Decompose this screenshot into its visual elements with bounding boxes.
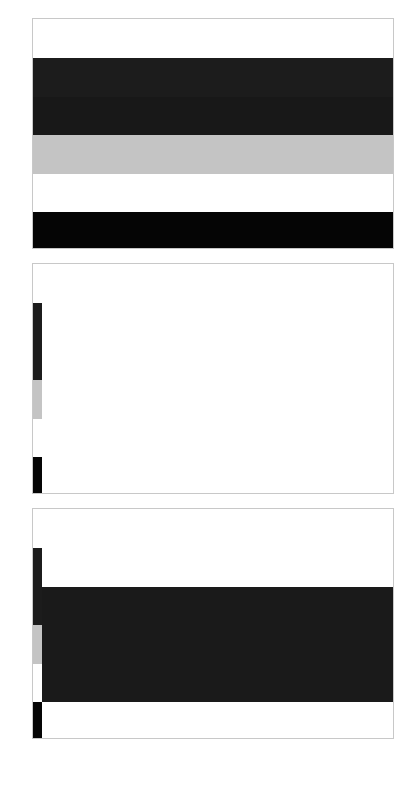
band-white-top (33, 19, 393, 58)
strip-gray (33, 625, 42, 664)
panel-full-stripes (32, 18, 394, 249)
strip-black (33, 702, 42, 739)
band-black (33, 212, 393, 249)
band-gray (33, 135, 393, 174)
strip-gray (33, 380, 42, 419)
strip-black (33, 457, 42, 494)
band-darker (33, 97, 393, 135)
strip-dark (33, 303, 42, 380)
panel-left-strip-with-dark-block (32, 508, 394, 739)
band-dark (33, 58, 393, 97)
dark-block (42, 587, 394, 702)
panel-left-strip-only (32, 263, 394, 494)
strip-dark (33, 548, 42, 625)
band-white-middle (33, 174, 393, 212)
